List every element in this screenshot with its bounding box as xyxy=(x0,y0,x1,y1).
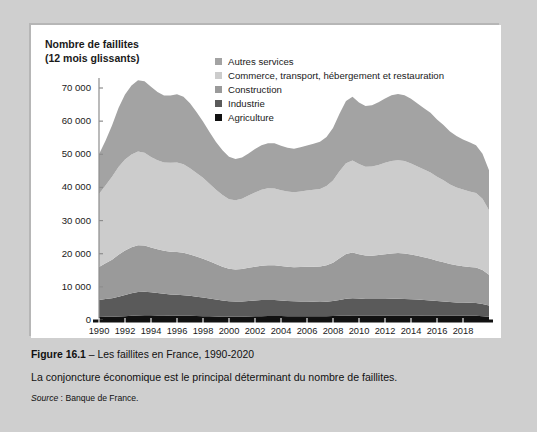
y-axis-label: 60 000 xyxy=(43,115,91,126)
y-axis-label: 50 000 xyxy=(43,148,91,159)
figure-source: Source : Banque de France. xyxy=(31,393,509,403)
y-axis-label: 0 xyxy=(43,314,91,325)
y-axis-label: 20 000 xyxy=(43,248,91,259)
source-label: Source xyxy=(31,393,58,403)
chart-panel: Nombre de faillites (12 mois glissants) … xyxy=(31,25,501,338)
y-axis-label: 40 000 xyxy=(43,181,91,192)
caption-divider xyxy=(31,338,501,339)
figure-title: – Les faillites en France, 1990-2020 xyxy=(86,349,254,360)
source-value: : Banque de France. xyxy=(58,393,138,403)
figure-title-line: Figure 16.1 – Les faillites en France, 1… xyxy=(31,349,509,360)
stacked-area-svg xyxy=(31,25,501,338)
x-axis-label: 2018 xyxy=(446,326,480,336)
figure-caption: Figure 16.1 – Les faillites en France, 1… xyxy=(31,349,509,403)
plot-area: 010 00020 00030 00040 00050 00060 00070 … xyxy=(31,25,501,338)
figure-description: La conjoncture économique est le princip… xyxy=(31,371,509,383)
y-axis-label: 30 000 xyxy=(43,215,91,226)
y-axis-label: 10 000 xyxy=(43,281,91,292)
figure-number: Figure 16.1 xyxy=(31,349,86,360)
y-axis-label: 70 000 xyxy=(43,82,91,93)
page-background: Nombre de faillites (12 mois glissants) … xyxy=(0,0,537,432)
